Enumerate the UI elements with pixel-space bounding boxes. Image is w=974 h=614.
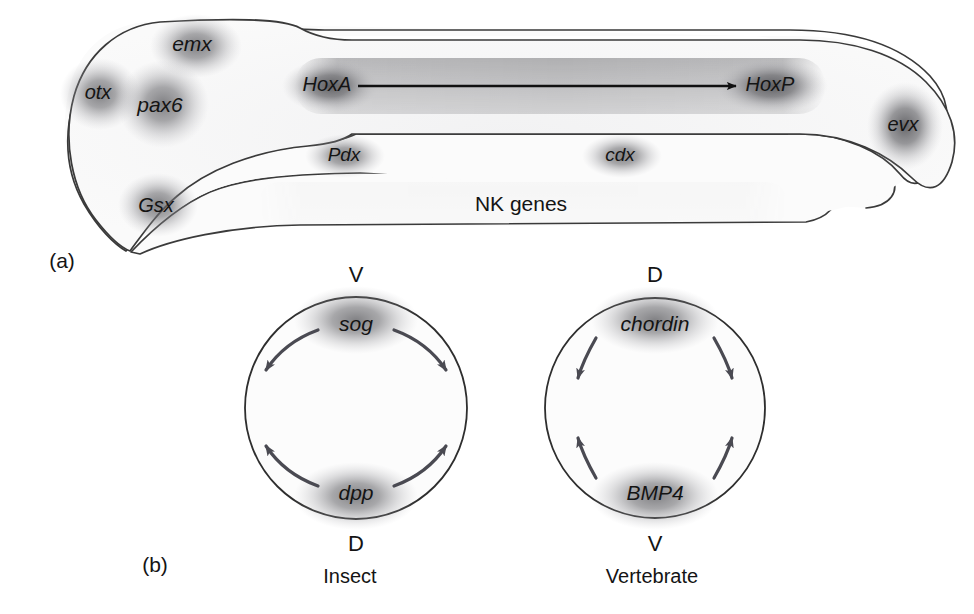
label-emx: emx (172, 32, 213, 55)
label-gsx: Gsx (138, 194, 175, 216)
label-hoxp: HoxP (746, 73, 796, 95)
label-otx: otx (85, 81, 113, 103)
vertebrate-label-bmp4: BMP4 (626, 481, 683, 504)
vertebrate-label-chordin: chordin (621, 312, 690, 335)
label-nk-genes: NK genes (475, 192, 567, 215)
vertebrate-caption: Vertebrate (606, 565, 698, 587)
insect-caption: Insect (323, 565, 377, 587)
insect-label-dpp: dpp (338, 481, 373, 504)
insect-axis-letter-top: V (349, 262, 364, 287)
insect-label-sog: sog (339, 312, 373, 335)
figure-canvas: otx emx pax6 Gsx HoxA HoxP evx Pdx cdx N… (0, 0, 974, 614)
figure-root: otx emx pax6 Gsx HoxA HoxP evx Pdx cdx N… (0, 0, 974, 614)
label-hoxa: HoxA (303, 73, 352, 95)
vertebrate-axis-letter-bottom: V (648, 531, 663, 556)
label-pdx: Pdx (328, 144, 362, 165)
label-evx: evx (887, 113, 919, 135)
panel-label-a: (a) (49, 249, 75, 272)
label-pax6: pax6 (136, 93, 183, 116)
insect-axis-letter-bottom: D (348, 531, 364, 556)
label-cdx: cdx (605, 144, 636, 165)
panel-label-b: (b) (142, 553, 168, 576)
vertebrate-axis-letter-top: D (647, 262, 663, 287)
